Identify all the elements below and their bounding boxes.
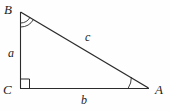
right-triangle-figure: B C A a b c: [0, 0, 170, 111]
side-c-line: [21, 12, 149, 88]
angle-arc-a-icon: [128, 77, 131, 89]
side-label-a: a: [8, 47, 14, 59]
side-label-c: c: [85, 31, 90, 43]
right-angle-square-icon: [21, 79, 30, 89]
vertex-label-a: A: [155, 83, 163, 96]
vertex-label-b: B: [4, 3, 12, 16]
angle-arc-b-inner-icon: [21, 17, 31, 23]
vertex-label-c: C: [3, 83, 12, 96]
side-label-b: b: [81, 94, 87, 106]
